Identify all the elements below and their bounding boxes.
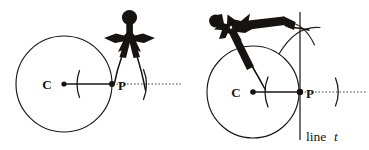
compass-needle-leg bbox=[228, 28, 255, 71]
compass-needle-shaft bbox=[252, 66, 266, 90]
point-dot-c-left bbox=[61, 81, 66, 86]
point-dot-c-right bbox=[250, 89, 256, 95]
panel-left: C P bbox=[16, 10, 181, 132]
point-label-c-right: C bbox=[231, 85, 240, 100]
point-label-p-right: P bbox=[306, 86, 314, 101]
line-t-label-prefix: line bbox=[306, 129, 326, 144]
compass-head-knob bbox=[122, 10, 137, 25]
line-t-label-variable: t bbox=[334, 129, 339, 144]
panel-right: C P line t bbox=[207, 12, 367, 144]
point-label-c-left: C bbox=[42, 77, 51, 92]
compass-hinge bbox=[125, 32, 134, 41]
figure-canvas: C P bbox=[0, 0, 369, 150]
construction-figure: C P bbox=[0, 0, 369, 150]
point-label-p-left: P bbox=[118, 78, 126, 93]
compass-rotated bbox=[209, 14, 309, 91]
compass-pencil-leg bbox=[231, 17, 285, 32]
point-dot-p-right bbox=[297, 89, 303, 95]
compass-pencil-ferrule bbox=[283, 16, 296, 30]
